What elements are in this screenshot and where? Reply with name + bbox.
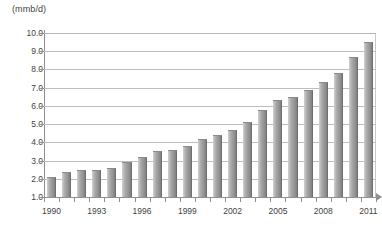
x-tick-label: 1990 (42, 206, 61, 216)
y-tick-label: 8.0 (7, 64, 43, 74)
bar-slot (107, 33, 116, 197)
x-tick-mark (285, 197, 286, 202)
x-tick-mark (195, 197, 196, 202)
x-tick-label: 1993 (87, 206, 106, 216)
x-tick-mark (270, 197, 271, 202)
x-tick-mark (240, 197, 241, 202)
bar-slot (258, 33, 267, 197)
y-axis-unit-label: (mmb/d) (12, 4, 46, 14)
bar-slot (213, 33, 222, 197)
x-tick-mark (89, 197, 90, 202)
bar (334, 73, 343, 197)
bar-slot (62, 33, 71, 197)
bar (168, 150, 177, 197)
bar-slot (153, 33, 162, 197)
y-tick-label: 3.0 (7, 156, 43, 166)
bar (304, 90, 313, 198)
bar-slot (198, 33, 207, 197)
x-tick-mark (150, 197, 151, 202)
bar (183, 146, 192, 197)
bar-slot (77, 33, 86, 197)
x-tick-label: 1999 (178, 206, 197, 216)
y-tick-label: 2.0 (7, 174, 43, 184)
x-tick-label: 2011 (359, 206, 377, 216)
bar (198, 139, 207, 197)
bar (107, 168, 116, 197)
x-tick-mark (255, 197, 256, 202)
bar-slot (304, 33, 313, 197)
x-tick-mark (346, 197, 347, 202)
x-tick-mark (225, 197, 226, 202)
x-tick-label: 2002 (223, 206, 242, 216)
bar-slot (183, 33, 192, 197)
x-tick-mark (165, 197, 166, 202)
x-tick-mark (74, 197, 75, 202)
bar-slot (138, 33, 147, 197)
bar-series (44, 33, 376, 197)
bar-slot (168, 33, 177, 197)
x-tick-mark (361, 197, 362, 202)
x-tick-label: 1996 (133, 206, 152, 216)
bar (364, 42, 373, 197)
y-tick-label: 4.0 (7, 137, 43, 147)
bar (258, 110, 267, 197)
bar-slot (319, 33, 328, 197)
x-tick-mark (44, 197, 45, 202)
bar-slot (243, 33, 252, 197)
plot-area (44, 33, 376, 197)
x-tick-mark (331, 197, 332, 202)
bar (122, 162, 131, 197)
x-tick-mark (301, 197, 302, 202)
bar (213, 135, 222, 197)
bar (138, 157, 147, 197)
bar (92, 170, 101, 197)
bar-slot (273, 33, 282, 197)
bar-slot (228, 33, 237, 197)
x-tick-mark (376, 197, 377, 202)
bar-slot (349, 33, 358, 197)
x-tick-label: 2005 (268, 206, 287, 216)
y-tick-label: 5.0 (7, 119, 43, 129)
bar (243, 122, 252, 197)
bar-slot (47, 33, 56, 197)
x-tick-mark (316, 197, 317, 202)
bar (62, 172, 71, 198)
bar (47, 177, 56, 197)
x-tick-label: 2008 (314, 206, 333, 216)
bar (77, 170, 86, 197)
bar-slot (288, 33, 297, 197)
x-tick-mark (104, 197, 105, 202)
bar-slot (364, 33, 373, 197)
x-tick-mark (180, 197, 181, 202)
bar (273, 100, 282, 197)
bar (349, 57, 358, 197)
y-tick-label: 1.0 (7, 192, 43, 202)
bar (288, 97, 297, 197)
bar-slot (122, 33, 131, 197)
bar (228, 130, 237, 197)
bar-slot (334, 33, 343, 197)
y-tick-label: 9.0 (7, 46, 43, 56)
y-tick-label: 7.0 (7, 83, 43, 93)
bar (319, 82, 328, 197)
y-tick-label: 10.0 (7, 28, 43, 38)
x-tick-mark (210, 197, 211, 202)
bar (153, 151, 162, 197)
x-tick-mark (135, 197, 136, 202)
y-tick-label: 6.0 (7, 101, 43, 111)
bar-slot (92, 33, 101, 197)
x-tick-mark (119, 197, 120, 202)
x-tick-mark (59, 197, 60, 202)
